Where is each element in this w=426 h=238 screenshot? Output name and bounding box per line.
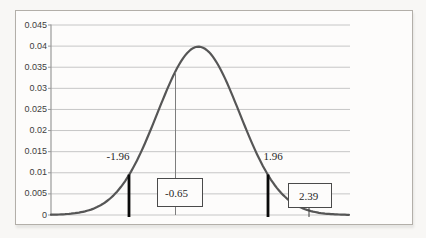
normal-curve-plot bbox=[0, 0, 426, 238]
chart-figure: 0.0450.040.0350.030.0250.020.0150.010.00… bbox=[0, 0, 426, 238]
callout-label: -0.65 bbox=[165, 187, 188, 199]
callout-label: 2.39 bbox=[299, 190, 318, 202]
y-axis-label: 0.02 bbox=[14, 125, 47, 136]
y-axis-label: 0.01 bbox=[14, 167, 47, 178]
callout-box-2-39: 2.39 bbox=[288, 183, 332, 208]
y-axis-label: 0.005 bbox=[14, 188, 47, 199]
y-axis-label: 0.035 bbox=[14, 62, 47, 73]
callout-box-negative-0-65: -0.65 bbox=[157, 178, 203, 207]
y-axis-label: 0.04 bbox=[14, 41, 47, 52]
marker-label-positive-1-96: 1.96 bbox=[256, 150, 290, 162]
y-axis-label: 0.025 bbox=[14, 104, 47, 115]
y-axis-label: 0.03 bbox=[14, 83, 47, 94]
y-axis-label: 0.015 bbox=[14, 146, 47, 157]
marker-label-negative-1-96: -1.96 bbox=[101, 150, 135, 162]
y-axis-label: 0.045 bbox=[14, 20, 47, 31]
y-axis-label: 0 bbox=[14, 210, 47, 221]
